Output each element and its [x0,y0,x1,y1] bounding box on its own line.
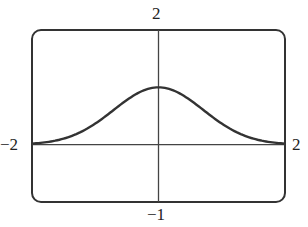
y-max-label: 2 [152,5,161,22]
x-max-label: 2 [292,136,301,153]
x-min-label: −2 [0,136,18,153]
graph-window [0,0,308,227]
y-min-label: −1 [147,206,165,223]
